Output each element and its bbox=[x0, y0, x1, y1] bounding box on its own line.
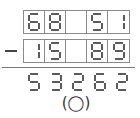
result-digit-cell bbox=[67, 73, 89, 91]
top-digit-1 bbox=[28, 13, 40, 31]
result-digit-1 bbox=[28, 73, 40, 91]
bottom-digit-2 bbox=[49, 42, 61, 60]
bottom-digit-cell bbox=[108, 40, 129, 62]
result-divider-line bbox=[2, 67, 135, 68]
top-digit-5 bbox=[113, 13, 125, 31]
top-digit-cell bbox=[24, 11, 45, 33]
top-row-boxes bbox=[23, 10, 130, 34]
result-digit-5 bbox=[116, 73, 128, 91]
top-digit-4 bbox=[91, 13, 103, 31]
bottom-digit-cell-empty bbox=[66, 40, 87, 62]
bottom-digit-4 bbox=[91, 42, 103, 60]
bottom-digit-cell bbox=[45, 40, 66, 62]
bottom-digit-1 bbox=[28, 42, 40, 60]
top-digit-cell bbox=[45, 11, 66, 33]
top-digit-cell bbox=[108, 11, 129, 33]
top-digit-cell bbox=[87, 11, 108, 33]
result-digit-cell bbox=[23, 73, 45, 91]
bottom-row-boxes bbox=[23, 39, 130, 63]
answer-placeholder: (◯) bbox=[61, 94, 91, 112]
bottom-digit-cell bbox=[24, 40, 45, 62]
result-digit-3 bbox=[72, 73, 84, 91]
bottom-digit-cell bbox=[87, 40, 108, 62]
result-digit-cell bbox=[89, 73, 111, 91]
result-digit-2 bbox=[50, 73, 62, 91]
result-digit-cell bbox=[45, 73, 67, 91]
result-digit-cell bbox=[111, 73, 133, 91]
bottom-digit-5 bbox=[113, 42, 125, 60]
minus-sign-icon bbox=[5, 50, 17, 52]
result-row bbox=[23, 73, 133, 91]
result-digit-4 bbox=[94, 73, 106, 91]
top-digit-2 bbox=[49, 13, 61, 31]
top-digit-cell-empty bbox=[66, 11, 87, 33]
